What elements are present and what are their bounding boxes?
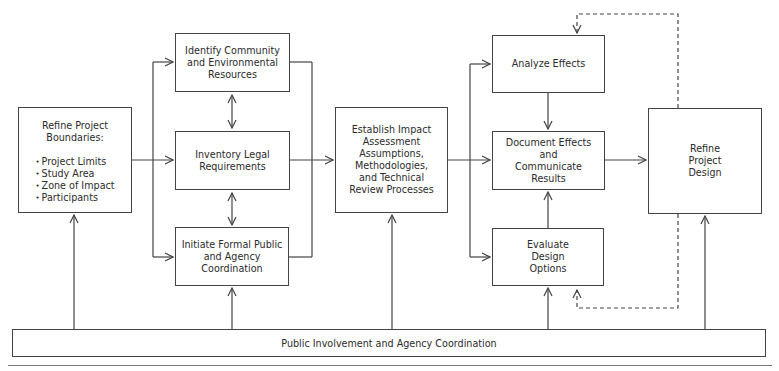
node-refine-project-design: Refine Project Design: [648, 108, 762, 214]
boundary-item: Study Area: [35, 168, 114, 180]
node-identify-resources: Identify Community and Environmental Res…: [175, 33, 290, 92]
node-label: Public Involvement and Agency Coordinati…: [281, 338, 496, 349]
edge-public-involvement-up: [74, 215, 705, 329]
node-refine-project-boundaries: Refine Project Boundaries: Project Limit…: [18, 107, 132, 213]
boundary-item: Participants: [35, 192, 114, 204]
node-label: Establish Impact Assessment Assumptions,…: [346, 124, 438, 196]
boundary-item: Zone of Impact: [35, 180, 114, 192]
boundary-item: Project Limits: [35, 156, 114, 168]
node-initiate-coordination: Initiate Formal Public and Agency Coordi…: [175, 227, 289, 286]
edge-establish-to-right: [448, 64, 490, 257]
bottom-divider: [8, 365, 772, 366]
node-label: Document Effects and Communicate Results: [506, 137, 592, 185]
node-evaluate-design: Evaluate Design Options: [492, 228, 604, 286]
boundary-list: Project Limits Study Area Zone of Impact…: [35, 156, 114, 204]
node-inventory-legal: Inventory Legal Requirements: [175, 131, 290, 190]
node-label: Analyze Effects: [512, 58, 585, 70]
node-establish-assessment: Establish Impact Assessment Assumptions,…: [335, 107, 448, 213]
edge-boundaries-to-middle: [132, 62, 173, 257]
edge-middle-to-establish: [289, 62, 333, 257]
node-label: Refine Project Design: [685, 143, 725, 179]
node-label: Evaluate Design Options: [513, 239, 583, 275]
node-public-involvement: Public Involvement and Agency Coordinati…: [12, 329, 766, 357]
node-label: Inventory Legal Requirements: [193, 149, 273, 173]
node-analyze-effects: Analyze Effects: [492, 35, 605, 93]
node-title: Refine Project Boundaries:: [40, 120, 110, 144]
node-document-effects: Document Effects and Communicate Results: [492, 131, 605, 190]
node-label: Identify Community and Environmental Res…: [180, 45, 285, 81]
node-label: Initiate Formal Public and Agency Coordi…: [180, 239, 284, 275]
